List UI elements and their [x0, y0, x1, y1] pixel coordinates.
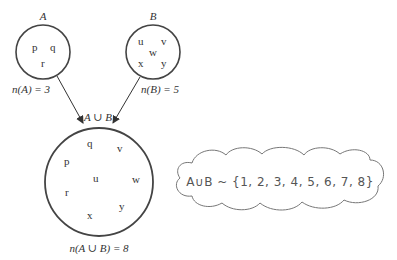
cloud-text: A∪B ~ {1, 2, 3, 4, 5, 6, 7, 8}	[186, 175, 374, 189]
union-element: r	[65, 186, 69, 198]
set-b-element: v	[161, 35, 167, 47]
set-b-element: w	[149, 46, 157, 58]
union-element: u	[93, 172, 99, 184]
set-a-cardinality: n(A) = 3	[12, 83, 50, 96]
set-b-label: B	[150, 10, 157, 22]
union-label: A ∪ B	[83, 111, 112, 123]
union-element: y	[119, 200, 125, 212]
set-a-circle	[16, 25, 70, 79]
arrow-a-to-union	[57, 76, 83, 123]
set-b-element: x	[138, 57, 144, 69]
set-b-cardinality: n(B) = 5	[141, 83, 179, 96]
set-a-element: q	[50, 41, 56, 53]
set-b: B u v w x y n(B) = 5	[126, 10, 180, 96]
set-a-element: r	[41, 57, 45, 69]
set-b-element: y	[161, 57, 167, 69]
venn-union-diagram: A p q r n(A) = 3 B u v w x y n(B) = 5 A …	[0, 0, 397, 260]
arrow-b-to-union	[113, 77, 140, 123]
union-element: x	[87, 209, 93, 221]
union-set: A ∪ B q v p u w r y x n(A ∪ B) = 8	[45, 111, 153, 255]
set-b-element: u	[138, 35, 144, 47]
union-element: w	[132, 173, 140, 185]
union-cardinality: n(A ∪ B) = 8	[69, 242, 129, 255]
union-element: q	[87, 137, 93, 149]
union-element: p	[64, 155, 70, 167]
correspondence-cloud: A∪B ~ {1, 2, 3, 4, 5, 6, 7, 8}	[176, 147, 383, 210]
union-element: v	[117, 142, 123, 154]
set-a-element: p	[32, 41, 38, 53]
set-a-label: A	[39, 10, 47, 22]
